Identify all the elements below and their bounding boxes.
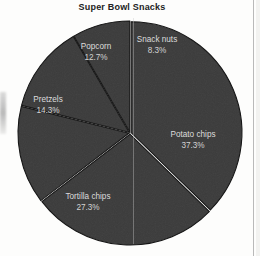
pie-chart-svg: Potato chips37.3%Tortilla chips27.3%Pret… — [0, 0, 260, 256]
slice-percent-potato-chips: 37.3% — [181, 141, 204, 150]
slice-label-pretzels: Pretzels — [33, 95, 63, 104]
pie-chart: Potato chips37.3%Tortilla chips27.3%Pret… — [0, 0, 260, 256]
scanned-page: Super Bowl Snacks Potato chips37.3%Torti… — [0, 0, 260, 256]
scan-smudge-artifact — [0, 92, 6, 134]
scan-fold-line — [133, 18, 134, 244]
slice-label-tortilla-chips: Tortilla chips — [65, 192, 110, 201]
slice-label-popcorn: Popcorn — [81, 42, 112, 51]
page-margin — [256, 0, 260, 256]
slice-percent-snack-nuts: 8.3% — [148, 46, 167, 55]
slice-percent-popcorn: 12.7% — [84, 53, 107, 62]
slice-label-potato-chips: Potato chips — [170, 130, 215, 139]
slice-percent-tortilla-chips: 27.3% — [76, 203, 99, 212]
slice-label-snack-nuts: Snack nuts — [137, 35, 178, 44]
slice-percent-pretzels: 14.3% — [36, 106, 59, 115]
page-edge-line — [253, 0, 254, 256]
